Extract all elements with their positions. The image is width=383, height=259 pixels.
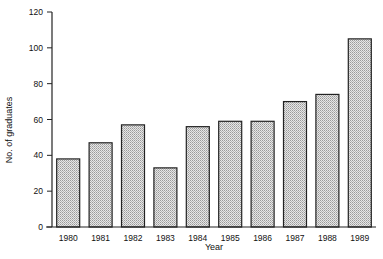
y-tick-label: 80	[34, 79, 44, 89]
x-tick-label: 1987	[286, 233, 305, 243]
bar-1984	[186, 127, 209, 227]
y-tick-label: 60	[34, 115, 44, 125]
x-axis-title: Year	[205, 242, 223, 252]
y-tick-label: 120	[29, 7, 43, 17]
y-tick-label: 40	[34, 150, 44, 160]
x-tick-label: 1980	[59, 233, 78, 243]
bar-1989	[348, 39, 371, 227]
bar-1986	[251, 121, 274, 227]
x-tick-label: 1985	[221, 233, 240, 243]
bar-1983	[154, 168, 177, 227]
x-axis: 1980198119821983198419851986198719881989	[46, 227, 376, 243]
bar-1987	[284, 102, 307, 227]
x-tick-label: 1981	[91, 233, 110, 243]
y-axis: 020406080100120	[29, 7, 52, 232]
x-tick-label: 1982	[124, 233, 143, 243]
x-tick-label: 1983	[156, 233, 175, 243]
bar-1985	[219, 121, 242, 227]
x-tick-label: 1988	[318, 233, 337, 243]
bar-1981	[89, 143, 112, 227]
bar-1988	[316, 94, 339, 227]
y-axis-title: No. of graduates	[4, 96, 14, 163]
bar-1980	[57, 159, 80, 227]
bars	[57, 39, 372, 227]
y-tick-label: 100	[29, 43, 43, 53]
bar-1982	[122, 125, 145, 227]
y-tick-label: 20	[34, 186, 44, 196]
x-tick-label: 1986	[253, 233, 272, 243]
y-tick-label: 0	[38, 222, 43, 232]
bar-chart: 020406080100120 198019811982198319841985…	[0, 0, 383, 259]
x-tick-label: 1989	[350, 233, 369, 243]
